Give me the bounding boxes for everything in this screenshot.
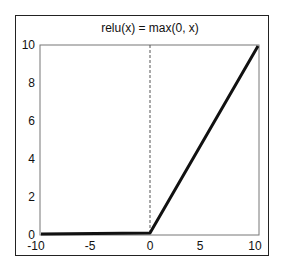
y-axis-ticks: 0 2 4 6 8 10: [22, 38, 36, 242]
y-tick-label: 10: [22, 38, 36, 52]
x-tick-label: 5: [197, 239, 204, 253]
x-axis-ticks: -10 -5 0 5 10: [27, 239, 262, 253]
x-tick-label: -10: [27, 239, 45, 253]
relu-chart: relu(x) = max(0, x) 0 2 4 6 8 10 -10 -5 …: [0, 0, 284, 271]
y-tick-label: 2: [28, 190, 35, 204]
x-tick-label: 0: [147, 239, 154, 253]
chart-title: relu(x) = max(0, x): [101, 21, 199, 35]
y-tick-label: 4: [28, 152, 35, 166]
x-tick-label: -5: [85, 239, 96, 253]
x-tick-label: 10: [248, 239, 262, 253]
y-tick-label: 8: [28, 76, 35, 90]
y-tick-label: 6: [28, 114, 35, 128]
